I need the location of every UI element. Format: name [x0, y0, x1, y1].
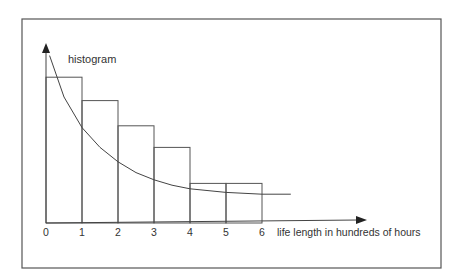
x-tick-label-2: 2	[115, 226, 121, 238]
histogram-annotation: histogram	[68, 53, 116, 65]
histogram-diagram: histogram 0123456 life length in hundred…	[0, 0, 464, 279]
histogram-bar-0	[46, 77, 82, 223]
histogram-bar-5	[226, 183, 262, 223]
x-axis-label: life length in hundreds of hours	[277, 226, 421, 238]
x-tick-label-6: 6	[259, 226, 265, 238]
x-tick-label-1: 1	[79, 226, 85, 238]
x-tick-label-0: 0	[43, 226, 49, 238]
histogram-bar-1	[82, 101, 118, 223]
x-tick-label-3: 3	[151, 226, 157, 238]
y-axis-arrow-icon	[42, 43, 50, 53]
density-curve	[50, 56, 291, 195]
x-tick-label-4: 4	[187, 226, 193, 238]
x-axis-arrow-icon	[356, 216, 367, 224]
x-tick-label-5: 5	[223, 226, 229, 238]
histogram-bar-2	[118, 126, 154, 223]
